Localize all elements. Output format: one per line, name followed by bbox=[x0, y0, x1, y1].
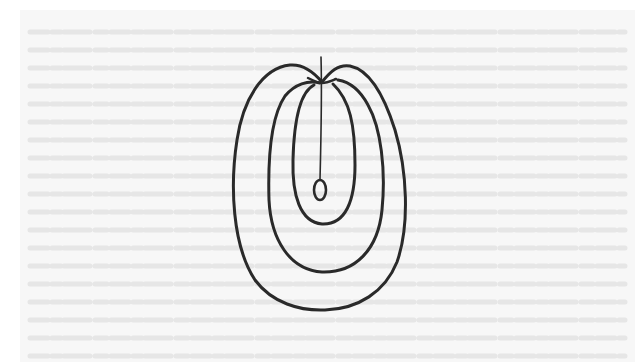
outer-contour bbox=[233, 65, 405, 310]
inner-contour bbox=[293, 84, 355, 224]
terminal-oval bbox=[314, 180, 326, 200]
scanned-page bbox=[0, 0, 635, 362]
central-stalk bbox=[320, 57, 321, 180]
ovoid-line-drawing bbox=[0, 0, 635, 362]
middle-contour bbox=[269, 80, 384, 272]
